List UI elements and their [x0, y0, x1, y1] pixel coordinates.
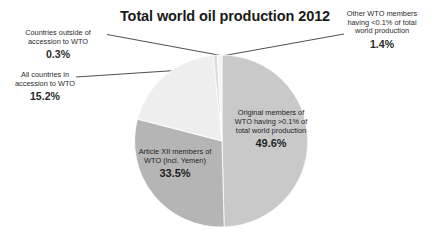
slice-label-line1: Article XII members of [123, 147, 227, 156]
callout-countries-outside-accession: Countries outside of accession to WTO 0.… [6, 29, 110, 60]
slice-label-line1: Original members of [219, 108, 323, 117]
slice-label-article-xii-members: Article XII members of WTO (incl. Yemen)… [123, 147, 227, 180]
callout-caption-line2: accession to WTO [6, 38, 110, 47]
callout-value-other-wto: 1.4% [338, 38, 426, 51]
slice-value-original-members: 49.6% [219, 137, 323, 150]
slice-label-line2: WTO having >0.1% of [219, 117, 323, 126]
callout-other-wto-members: Other WTO members having <0.1% of total … [338, 10, 426, 50]
slice-label-line3: total world production [219, 126, 323, 135]
leader-line-other-wto [225, 34, 345, 56]
callout-caption-line2: accession to WTO [2, 80, 88, 89]
slice-label-original-members: Original members of WTO having >0.1% of … [219, 108, 323, 151]
callout-caption-line3: world production [338, 27, 426, 36]
callout-value-outside-accession: 0.3% [6, 48, 110, 61]
slice-value-article-xii: 33.5% [123, 167, 227, 180]
pie-chart-figure: Total world oil production 2012 Countrie… [0, 0, 429, 244]
leader-line-outside-accession [107, 35, 221, 56]
callout-value-in-accession: 15.2% [2, 90, 88, 103]
callout-all-countries-in-accession: All countries in accession to WTO 15.2% [2, 71, 88, 102]
slice-label-line2: WTO (incl. Yemen) [123, 156, 227, 165]
